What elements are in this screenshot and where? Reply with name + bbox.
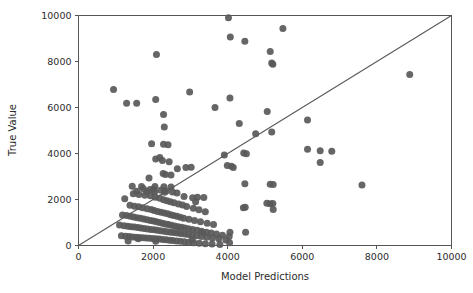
data-point <box>197 218 204 225</box>
data-point <box>191 217 198 224</box>
x-tick-label: 10000 <box>436 251 466 262</box>
x-tick-label: 2000 <box>141 251 165 262</box>
x-tick-label: 8000 <box>365 251 389 262</box>
data-point <box>152 96 159 103</box>
data-point <box>174 165 181 172</box>
data-point <box>195 206 202 213</box>
data-point <box>242 229 249 236</box>
data-point <box>212 104 219 111</box>
y-axis-ticks: 0200040006000800010000 <box>41 10 78 251</box>
data-point <box>226 239 233 246</box>
data-point <box>169 188 176 195</box>
data-point <box>216 241 223 248</box>
data-point <box>166 158 173 165</box>
y-tick-label: 2000 <box>47 194 71 205</box>
data-point <box>243 150 250 157</box>
data-point <box>186 89 193 96</box>
data-point <box>165 141 172 148</box>
data-point <box>168 172 175 179</box>
data-point <box>279 25 286 32</box>
data-point <box>204 220 211 227</box>
data-point <box>202 208 209 215</box>
data-point <box>264 108 271 115</box>
data-point <box>358 182 365 189</box>
data-point <box>110 86 117 93</box>
data-point <box>304 146 311 153</box>
data-point <box>125 237 132 244</box>
data-point <box>209 241 216 248</box>
data-point <box>236 120 243 127</box>
y-tick-label: 6000 <box>47 102 71 113</box>
data-point <box>226 95 233 102</box>
data-point <box>241 38 248 45</box>
data-point <box>221 152 228 159</box>
data-point <box>241 180 248 187</box>
data-point <box>163 187 170 194</box>
y-axis-title: True Value <box>7 104 18 157</box>
data-point <box>240 204 247 211</box>
data-point <box>270 181 277 188</box>
data-point <box>267 48 274 55</box>
data-point <box>266 200 273 207</box>
data-point <box>230 164 237 171</box>
data-point <box>200 194 207 201</box>
data-point <box>153 51 160 58</box>
data-point <box>406 71 413 78</box>
data-point <box>268 128 275 135</box>
data-point <box>181 193 188 200</box>
chart-canvas: 0200040006000800010000 02000400060008000… <box>0 0 473 293</box>
data-point <box>159 157 166 164</box>
data-point <box>140 185 147 192</box>
data-point <box>192 198 199 205</box>
data-point <box>225 14 232 21</box>
data-point <box>199 229 206 236</box>
x-tick-label: 0 <box>75 251 81 262</box>
data-point <box>146 174 153 181</box>
data-point <box>161 124 168 131</box>
y-tick-label: 4000 <box>47 148 71 159</box>
data-point <box>210 221 217 228</box>
data-point <box>202 240 209 247</box>
y-tick-label: 8000 <box>47 56 71 67</box>
data-point <box>148 140 155 147</box>
data-point <box>269 61 276 68</box>
x-tick-label: 4000 <box>216 251 240 262</box>
data-point <box>227 34 234 41</box>
data-point <box>147 186 154 193</box>
data-point <box>133 100 140 107</box>
data-point <box>160 111 167 118</box>
data-point <box>226 229 233 236</box>
scatter-points <box>110 14 413 248</box>
data-point <box>135 235 142 242</box>
data-point <box>152 238 159 245</box>
data-point <box>270 206 277 213</box>
x-tick-label: 6000 <box>290 251 314 262</box>
data-point <box>183 203 190 210</box>
data-point <box>196 240 203 247</box>
x-axis-title: Model Predictions <box>221 271 309 282</box>
data-point <box>189 236 196 243</box>
scatter-plot-figure: 0200040006000800010000 02000400060008000… <box>0 0 473 293</box>
y-tick-label: 10000 <box>41 10 71 21</box>
data-point <box>252 130 259 137</box>
data-point <box>328 148 335 155</box>
y-tick-label: 0 <box>65 240 71 251</box>
identity-line <box>79 16 452 246</box>
data-point <box>152 156 159 163</box>
data-point <box>317 147 324 154</box>
data-point <box>135 191 142 198</box>
data-point <box>121 195 128 202</box>
data-point <box>188 164 195 171</box>
data-point <box>209 234 216 241</box>
data-point <box>317 159 324 166</box>
x-axis-ticks: 0200040006000800010000 <box>75 246 466 262</box>
data-point <box>123 100 130 107</box>
data-point <box>304 116 311 123</box>
